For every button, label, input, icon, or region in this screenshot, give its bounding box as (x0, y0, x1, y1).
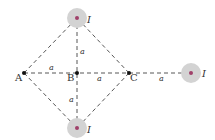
dashed-lines (24, 18, 191, 128)
point-B-label: B (67, 72, 74, 83)
line-C-bottom (77, 73, 129, 128)
current-out-dot-icon (75, 16, 79, 20)
point-C-label: C (130, 72, 138, 83)
current-out-dot-icon (189, 71, 193, 75)
current-label-right: I (201, 68, 207, 79)
distance-B-bottom: a (69, 95, 74, 104)
diagram-stage: A B C I I I a a a a a (0, 0, 215, 140)
wire-bottom (67, 118, 87, 138)
distance-C-right: a (159, 74, 164, 83)
diagram-canvas: A B C I I I a a a a a (0, 0, 215, 140)
line-C-top (77, 18, 129, 73)
wire-top (67, 8, 87, 28)
current-label-top: I (86, 14, 92, 25)
point-A-dot (22, 71, 26, 75)
point-A-label: A (14, 72, 23, 83)
distance-A-B: a (49, 63, 54, 72)
current-label-bottom: I (86, 124, 92, 135)
current-out-dot-icon (75, 126, 79, 130)
wire-right (181, 63, 201, 83)
distance-B-top: a (80, 47, 85, 56)
distance-B-C: a (97, 74, 102, 83)
point-B-dot (75, 71, 79, 75)
